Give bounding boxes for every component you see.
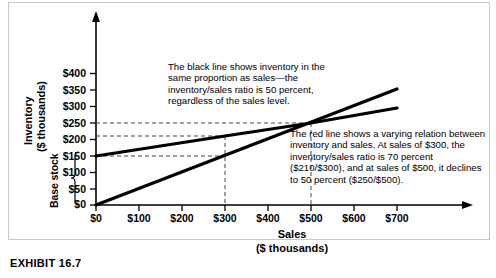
y-tick-label-200: $200 xyxy=(42,133,86,145)
x-tick-label-300: $300 xyxy=(205,212,245,224)
x-tick-label-400: $400 xyxy=(248,212,288,224)
annotation-black-line: The black line shows inventory in the sa… xyxy=(168,61,350,107)
y-axis-title-inventory: Inventory xyxy=(22,96,34,145)
x-tick-label-200: $200 xyxy=(162,212,202,224)
y-axis-ticks xyxy=(90,74,96,206)
x-axis-title-sales: Sales xyxy=(232,228,352,240)
exhibit-figure: $400 $350 $300 $250 $200 $150 $100 $50 $… xyxy=(0,0,496,278)
annotation-red-line: The red line shows a varying relation be… xyxy=(290,128,488,185)
x-tick-label-0: $0 xyxy=(76,212,116,224)
y-axis xyxy=(92,11,100,205)
exhibit-label: EXHIBIT 16.7 xyxy=(10,257,81,269)
x-axis-ticks xyxy=(96,205,397,211)
x-tick-label-100: $100 xyxy=(119,212,159,224)
x-axis xyxy=(96,201,473,209)
base-stock-label: Base stock xyxy=(48,154,60,208)
y-tick-label-350: $350 xyxy=(42,84,86,96)
y-tick-label-250: $250 xyxy=(42,117,86,129)
x-tick-label-500: $500 xyxy=(291,212,331,224)
x-tick-label-600: $600 xyxy=(334,212,374,224)
x-axis-title-units: ($ thousands) xyxy=(232,242,352,254)
y-tick-label-400: $400 xyxy=(42,67,86,79)
x-tick-label-700: $700 xyxy=(377,212,417,224)
y-axis-title-units: ($ thousands) xyxy=(35,81,47,152)
y-tick-label-300: $300 xyxy=(42,100,86,112)
